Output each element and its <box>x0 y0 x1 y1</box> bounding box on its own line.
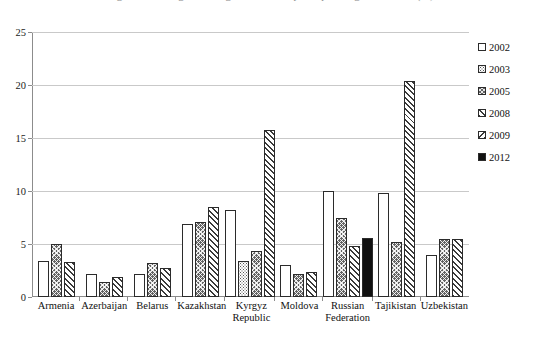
bar-tajikistan-2002 <box>378 193 389 297</box>
bar-group-kazakhstan <box>176 32 224 297</box>
x-label-line1: Uzbekistan <box>421 300 468 311</box>
x-label-kazakhstan: Kazakhstan <box>176 300 227 324</box>
legend-swatch-2005 <box>478 87 486 95</box>
bar-uzbekistan-2005 <box>439 239 450 297</box>
bar-kazakhstan-2002 <box>182 224 193 297</box>
bar-group-kyrgyz-republic <box>225 32 275 297</box>
bar-group-russian-federation <box>323 32 373 297</box>
x-label-line1: Tajikistan <box>375 300 416 311</box>
bar-azerbaijan-2005 <box>99 282 110 297</box>
bar-kyrgyz-republic-2003 <box>238 261 249 297</box>
y-tick-label-20: 20 <box>16 80 27 91</box>
bar-group-azerbaijan <box>80 32 128 297</box>
bar-group-belarus <box>128 32 176 297</box>
y-tick-label-10: 10 <box>16 186 27 197</box>
x-label-line1: Armenia <box>38 300 75 311</box>
legend-label-2009: 2009 <box>489 130 510 141</box>
bar-belarus-2002 <box>134 274 145 297</box>
legend-item-2003[interactable]: 2003 <box>478 58 538 80</box>
x-label-line1: Azerbaijan <box>81 300 127 311</box>
y-tick-label-5: 5 <box>21 239 26 250</box>
bar-belarus-2005 <box>147 263 158 297</box>
y-tick-label-0: 0 <box>21 292 26 303</box>
x-label-line1: Kazakhstan <box>177 300 226 311</box>
bar-kazakhstan-2008 <box>208 207 219 297</box>
bar-russian-federation-2012 <box>362 238 373 297</box>
bar-kyrgyz-republic-2005 <box>251 251 262 297</box>
bar-russian-federation-2005 <box>336 218 347 298</box>
bar-group-armenia <box>32 32 80 297</box>
x-label-uzbekistan: Uzbekistan <box>420 300 469 324</box>
x-label-kyrgyz-republic: KyrgyzRepublic <box>227 300 275 324</box>
bar-azerbaijan-2002 <box>86 274 97 297</box>
legend-item-2002[interactable]: 2002 <box>478 36 538 58</box>
bar-group-uzbekistan <box>421 32 469 297</box>
y-tick-mark-0 <box>28 297 32 298</box>
bar-moldova-2002 <box>280 265 291 297</box>
legend-item-2012[interactable]: 2012 <box>478 146 538 168</box>
x-label-azerbaijan: Azerbaijan <box>80 300 128 324</box>
bar-tajikistan-2005 <box>391 242 402 297</box>
bar-kyrgyz-republic-2002 <box>225 210 236 297</box>
legend-label-2008: 2008 <box>489 108 510 119</box>
legend-item-2009[interactable]: 2009 <box>478 124 538 146</box>
bar-moldova-2008 <box>306 272 317 297</box>
y-tick-label-15: 15 <box>16 133 27 144</box>
bar-azerbaijan-2008 <box>112 277 123 297</box>
legend-label-2003: 2003 <box>489 64 510 75</box>
bar-russian-federation-2002 <box>323 191 334 297</box>
bar-group-moldova <box>275 32 323 297</box>
x-label-line1: Moldova <box>281 300 319 311</box>
bar-armenia-2008 <box>64 262 75 297</box>
x-label-line2: Republic <box>228 312 274 324</box>
x-label-line1: Belarus <box>136 300 168 311</box>
y-tick-label-25: 25 <box>16 27 27 38</box>
x-label-line1: Kyrgyz <box>236 300 267 311</box>
legend-swatch-2003 <box>478 65 486 73</box>
page-title: Figure 3: Average annual growth rate of … <box>107 0 434 1</box>
legend-swatch-2009 <box>478 131 486 139</box>
x-label-moldova: Moldova <box>275 300 323 324</box>
bar-groups <box>32 32 469 297</box>
bar-moldova-2005 <box>293 274 304 297</box>
plot-area: 0510152025 <box>32 32 469 297</box>
legend-label-2005: 2005 <box>489 86 510 97</box>
chart-title-clipped: Figure 3: Average annual growth rate of … <box>0 0 541 13</box>
bar-kazakhstan-2005 <box>195 222 206 297</box>
legend-item-2008[interactable]: 2008 <box>478 102 538 124</box>
chart-legend: 200220032005200820092012 <box>478 36 538 168</box>
bar-uzbekistan-2008 <box>452 239 463 297</box>
x-label-line1: Russian <box>331 300 364 311</box>
bar-armenia-2005 <box>51 244 62 297</box>
bar-armenia-2002 <box>38 261 49 297</box>
x-label-belarus: Belarus <box>128 300 176 324</box>
x-label-armenia: Armenia <box>32 300 80 324</box>
bar-tajikistan-2008 <box>404 81 415 297</box>
x-label-tajikistan: Tajikistan <box>372 300 420 324</box>
legend-swatch-2008 <box>478 109 486 117</box>
bar-kyrgyz-republic-2008 <box>264 130 275 297</box>
x-label-line2: Federation <box>325 312 371 324</box>
legend-swatch-2002 <box>478 43 486 51</box>
x-axis-labels: ArmeniaAzerbaijanBelarusKazakhstanKyrgyz… <box>32 300 469 324</box>
legend-swatch-2012 <box>478 153 486 161</box>
chart-page: Figure 3: Average annual growth rate of … <box>0 0 541 358</box>
legend-item-2005[interactable]: 2005 <box>478 80 538 102</box>
bar-uzbekistan-2002 <box>426 255 437 297</box>
bar-group-tajikistan <box>373 32 421 297</box>
legend-label-2002: 2002 <box>489 42 510 53</box>
legend-label-2012: 2012 <box>489 152 510 163</box>
bar-russian-federation-2008 <box>349 246 360 297</box>
bar-belarus-2008 <box>160 268 171 297</box>
x-label-russian-federation: RussianFederation <box>324 300 372 324</box>
